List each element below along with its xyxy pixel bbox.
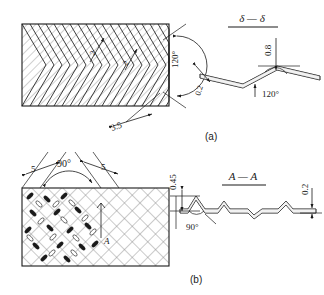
technical-drawing-figure: 2 2 120° 3.5 δ — δ (0, 0, 324, 295)
section-delta-angle-label: 120° (262, 89, 280, 99)
section-aa-angle-label: 90° (186, 222, 199, 232)
crosshatch-angle-label: 90° (57, 158, 71, 169)
section-delta-title: δ — δ (239, 12, 265, 24)
crosshatch-dim-right-label: 5 (101, 162, 106, 172)
chevron-angle-label: 120° (170, 51, 180, 69)
panel-b-caption: (b) (190, 274, 202, 285)
section-aa-height-label: 0.45 (168, 174, 178, 190)
crosshatch-dim-left-label: 5 (31, 164, 36, 174)
section-delta-height-label: 0.8 (263, 44, 273, 56)
crosshatch-plate-fill (22, 188, 169, 266)
chevron-plate-hatch-fill (22, 24, 169, 106)
section-marker-a-label: A (103, 236, 110, 246)
section-aa-title: A — A (228, 170, 258, 182)
panel-a-caption: (a) (205, 131, 217, 142)
section-aa-thickness-label: 0.2 (300, 184, 310, 195)
